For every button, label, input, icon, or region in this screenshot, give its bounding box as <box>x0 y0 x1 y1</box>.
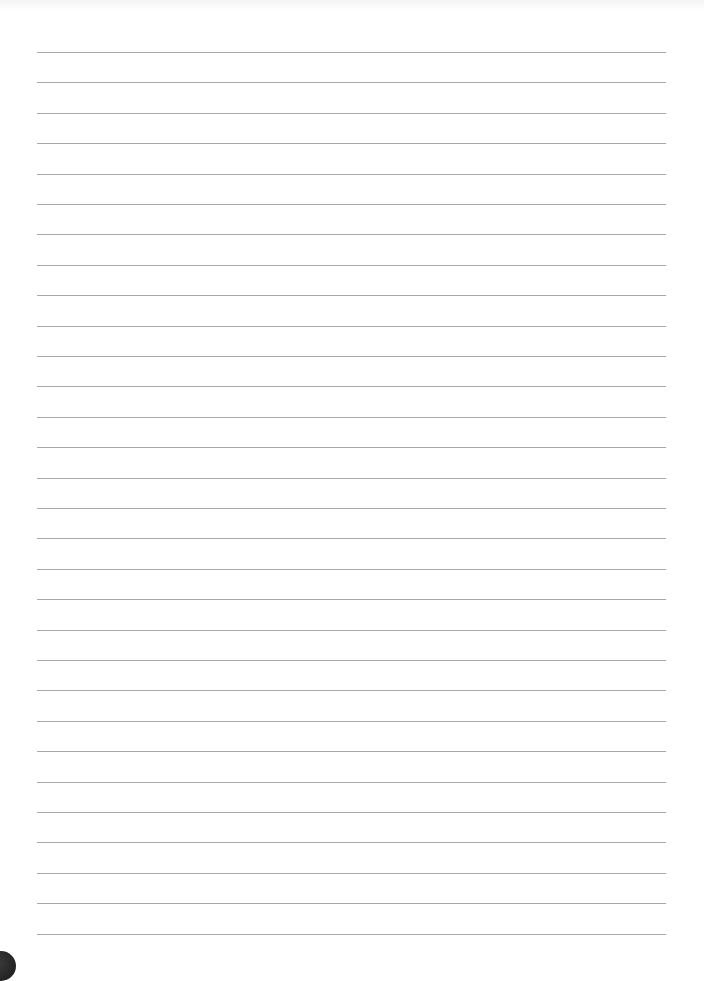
ruled-line <box>37 478 666 479</box>
ruled-line <box>37 599 666 600</box>
ruled-line <box>37 265 666 266</box>
ruled-line <box>37 143 666 144</box>
ruled-line <box>37 204 666 205</box>
ruled-line <box>37 782 666 783</box>
ruled-line <box>37 721 666 722</box>
ruled-line <box>37 690 666 691</box>
ruled-line <box>37 569 666 570</box>
ruled-line <box>37 113 666 114</box>
ruled-line <box>37 934 666 935</box>
ruled-line <box>37 660 666 661</box>
ruled-line <box>37 630 666 631</box>
ruled-line <box>37 903 666 904</box>
ruled-line <box>37 386 666 387</box>
ruled-line <box>37 82 666 83</box>
ruled-line <box>37 234 666 235</box>
ruled-line <box>37 538 666 539</box>
ruled-line <box>37 447 666 448</box>
ruled-line <box>37 356 666 357</box>
ruled-line <box>37 812 666 813</box>
ruled-line <box>37 842 666 843</box>
ruled-line <box>37 295 666 296</box>
ruled-line <box>37 326 666 327</box>
corner-hole-mark <box>0 951 16 981</box>
top-edge-shadow <box>0 0 704 10</box>
ruled-line <box>37 751 666 752</box>
ruled-line <box>37 508 666 509</box>
ruled-line <box>37 417 666 418</box>
ruled-line <box>37 873 666 874</box>
ruled-line <box>37 174 666 175</box>
ruled-line <box>37 52 666 53</box>
